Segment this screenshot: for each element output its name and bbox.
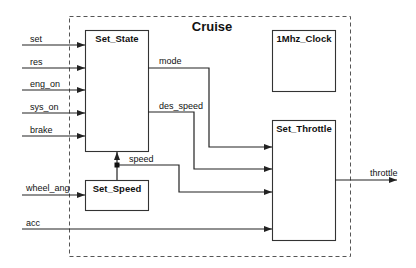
input-res[interactable]: res [22,57,85,68]
container-title: Cruise [192,19,232,34]
input-acc[interactable]: acc [22,218,272,229]
junction-dot [115,163,120,168]
block-label: Set_Speed [93,183,142,194]
signal-label: sys_on [30,102,59,112]
signal-label: throttle [370,168,398,178]
input-brake[interactable]: brake [22,125,85,136]
signal-label: acc [26,218,41,228]
input-set[interactable]: set [22,34,85,45]
signal-label: des_speed [159,101,203,111]
input-sys-on[interactable]: sys_on [22,102,85,113]
signal-label: eng_on [30,79,60,89]
block-label: Set_Throttle [276,123,331,134]
block-label: 1Mhz_Clock [277,33,333,44]
cruise-block-diagram: Cruise Set_State 1Mhz_Clock Set_Throttle… [0,0,416,268]
input-wheel-ang[interactable]: wheel_ang [22,183,85,195]
signal-label: mode [159,56,182,66]
signal-label: speed [129,154,154,164]
block-set-speed[interactable]: Set_Speed [86,181,149,211]
block-set-throttle[interactable]: Set_Throttle [273,121,336,241]
block-1mhz-clock[interactable]: 1Mhz_Clock [273,31,336,92]
block-label: Set_State [95,33,138,44]
signal-label: set [30,34,43,44]
signal-label: res [30,57,43,67]
signal-label: wheel_ang [25,183,70,193]
output-throttle[interactable]: throttle [335,168,398,180]
input-eng-on[interactable]: eng_on [22,79,85,90]
signal-des-speed[interactable]: des_speed [148,101,272,169]
signal-label: brake [30,125,53,135]
block-set-state[interactable]: Set_State [86,31,149,152]
